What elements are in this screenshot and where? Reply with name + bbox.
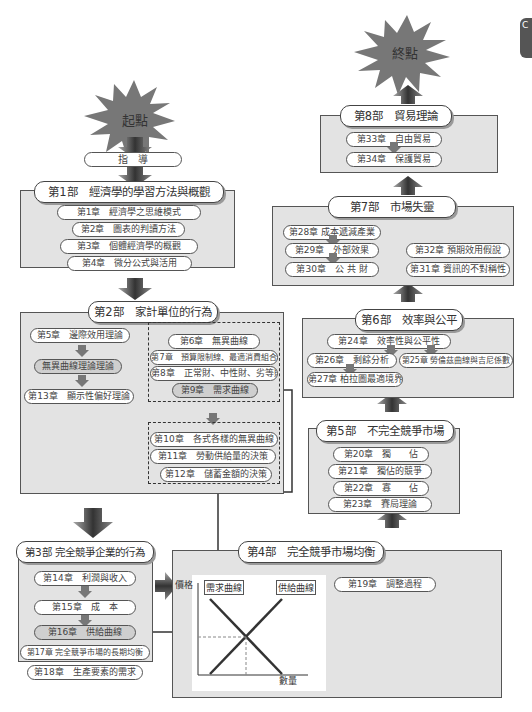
guide-box[interactable]: 指 導 bbox=[84, 152, 182, 167]
chapter-3[interactable]: 第3章 個體經濟學的概觀 bbox=[60, 239, 198, 254]
part5-title[interactable]: 第5部 不完全競爭市場 bbox=[316, 420, 454, 442]
small-down-arrow bbox=[75, 350, 89, 357]
chapter-8[interactable]: 第8章 正常財、中性財、劣等財 bbox=[150, 366, 278, 381]
chapter-1[interactable]: 第1章 經濟學之思維模式 bbox=[57, 205, 201, 220]
chapter-6[interactable]: 第6章 無異曲線 bbox=[168, 334, 260, 349]
side-tab[interactable]: C bbox=[520, 18, 532, 58]
chapter-13[interactable]: 第13章 顯示性偏好理論 bbox=[24, 389, 134, 404]
up-arrow-7-8 bbox=[393, 176, 423, 195]
chapter-9[interactable]: 第9章 需求曲線 bbox=[172, 383, 258, 398]
indifference-theory[interactable]: 無異曲線理論理論 bbox=[34, 359, 122, 374]
end-label: 終點 bbox=[370, 43, 440, 62]
chapter-7[interactable]: 第7章 預算限制線、最適消費組合 bbox=[150, 350, 278, 365]
chapter-20[interactable]: 第20章 獨 佔 bbox=[333, 447, 429, 462]
chapter-16[interactable]: 第16章 供給曲線 bbox=[34, 625, 136, 640]
chapter-2[interactable]: 第2章 圖表的判讀方法 bbox=[72, 222, 185, 237]
chapter-34[interactable]: 第34章 保護貿易 bbox=[346, 152, 442, 167]
part7-title[interactable]: 第7部 市場失靈 bbox=[328, 196, 456, 218]
chapter-22[interactable]: 第22章 寡 佔 bbox=[333, 481, 429, 496]
y-axis-label: 價格 bbox=[175, 578, 193, 591]
chapter-11[interactable]: 第11章 勞動供給量的決策 bbox=[150, 449, 276, 464]
part3-title[interactable]: 第3部 完全競爭企業的行為 bbox=[16, 541, 154, 563]
chapter-4[interactable]: 第4章 微分公式與活用 bbox=[67, 256, 192, 271]
chapter-17[interactable]: 第17章 完全競爭市場的長期均衡 bbox=[20, 645, 150, 660]
part1-title[interactable]: 第1部 經濟學的學習方法與概觀 bbox=[34, 181, 224, 203]
demand-curve-label: 需求曲線 bbox=[204, 580, 244, 595]
chapter-15[interactable]: 第15章 成 本 bbox=[34, 600, 136, 615]
chapter-31[interactable]: 第31章 資訊的不對稱性 bbox=[406, 262, 510, 277]
chapter-19[interactable]: 第19章 調整過程 bbox=[334, 577, 436, 592]
chapter-27[interactable]: 第27章 柏拉圖最適境界 bbox=[307, 372, 403, 387]
chapter-12[interactable]: 第12章 儲蓄金額的決策 bbox=[160, 467, 272, 482]
chapter-5[interactable]: 第5章 邊際效用理論 bbox=[30, 328, 130, 343]
x-axis-label: 數量 bbox=[279, 674, 297, 687]
supply-curve-label: 供給曲線 bbox=[276, 580, 316, 595]
down-arrow-4 bbox=[73, 508, 113, 538]
chapter-14[interactable]: 第14章 利潤與收入 bbox=[34, 571, 136, 586]
down-arrow-3 bbox=[118, 278, 152, 300]
chapter-10[interactable]: 第10章 各式各樣的無異曲線 bbox=[150, 432, 278, 447]
small-down-arrow bbox=[75, 380, 89, 387]
chapter-32[interactable]: 第32章 預期效用假說 bbox=[406, 243, 510, 258]
small-down-arrow bbox=[78, 591, 92, 598]
part8-title[interactable]: 第8部 貿易理論 bbox=[340, 105, 452, 127]
chapter-23[interactable]: 第23章 賽局理論 bbox=[328, 497, 432, 512]
chapter-25[interactable]: 第25章 勞倫茲曲線與吉尼係數 bbox=[399, 353, 513, 368]
part2-title[interactable]: 第2部 家計單位的行為 bbox=[88, 301, 218, 323]
chapter-18[interactable]: 第18章 生產要素的需求 bbox=[27, 665, 143, 680]
chapter-30[interactable]: 第30章 公 共 財 bbox=[285, 262, 379, 277]
chapter-21[interactable]: 第21章 獨佔的競爭 bbox=[328, 464, 432, 479]
start-label: 起點 bbox=[100, 110, 170, 129]
part6-title[interactable]: 第6部 效率與公平 bbox=[355, 309, 463, 331]
part4-title[interactable]: 第4部 完全競爭市場均衡 bbox=[238, 541, 384, 563]
